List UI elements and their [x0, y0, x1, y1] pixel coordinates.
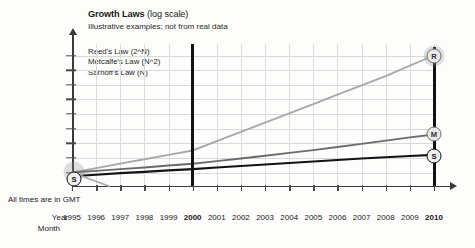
end-marker-reeds: R	[427, 48, 442, 63]
x-axis-year-label: 2008	[377, 213, 395, 222]
row-header-month: Month	[20, 224, 60, 233]
x-axis-tick-mark	[72, 185, 73, 191]
start-marker-sarnoff: S	[67, 172, 82, 187]
x-axis-year-label: 2005	[304, 213, 322, 222]
x-axis-label-rows: Year 19951996199719981999200020012002200…	[0, 213, 475, 235]
series-curves	[0, 0, 475, 248]
x-axis-tick-mark	[217, 185, 218, 191]
series-line	[72, 134, 434, 172]
x-axis-year-label: 1999	[160, 213, 178, 222]
x-axis-tick-mark	[193, 185, 194, 191]
x-axis-tick-mark	[386, 185, 387, 191]
x-axis-year-label: 2000	[184, 213, 202, 222]
x-axis-tick-mark	[337, 185, 338, 191]
x-axis-tick-mark	[265, 185, 266, 191]
x-axis-tick-mark	[120, 185, 121, 191]
x-axis-year-row: Year 19951996199719981999200020012002200…	[0, 213, 475, 224]
end-marker-metcalfes: M	[427, 127, 442, 142]
x-axis-year-label: 2001	[208, 213, 226, 222]
x-axis-year-label: 2010	[425, 213, 443, 222]
growth-laws-figure: Growth Laws (log scale) Illustrative exa…	[0, 0, 475, 248]
x-axis-tick-mark	[241, 185, 242, 191]
vertical-marker-2000	[191, 44, 194, 186]
x-axis-year-label: 1996	[87, 213, 105, 222]
x-axis-year-label: 2004	[280, 213, 298, 222]
x-axis-year-label: 2009	[401, 213, 419, 222]
x-axis-year-label: 2003	[256, 213, 274, 222]
x-axis-tick-mark	[434, 185, 435, 191]
x-axis-year-label: 2002	[232, 213, 250, 222]
x-axis-year-label: 1997	[111, 213, 129, 222]
series-line	[72, 155, 434, 176]
series-line	[72, 56, 434, 173]
gmt-note: All times are in GMT	[8, 195, 80, 204]
x-axis-tick-mark	[289, 185, 290, 191]
x-axis-year-label: 1995	[63, 213, 81, 222]
x-axis-tick-mark	[144, 185, 145, 191]
x-axis-year-label: 2006	[329, 213, 347, 222]
x-axis-tick-mark	[169, 185, 170, 191]
x-axis-month-row: Month	[0, 224, 475, 235]
x-axis-tick-mark	[362, 185, 363, 191]
x-axis-tick-mark	[96, 185, 97, 191]
vertical-marker-2010	[433, 47, 436, 186]
row-header-year: Year	[28, 213, 68, 222]
x-axis-year-label: 1998	[135, 213, 153, 222]
x-axis-tick-mark	[313, 185, 314, 191]
end-marker-sarnoff: S	[427, 148, 442, 163]
x-axis-year-label: 2007	[353, 213, 371, 222]
x-axis-tick-mark	[410, 185, 411, 191]
